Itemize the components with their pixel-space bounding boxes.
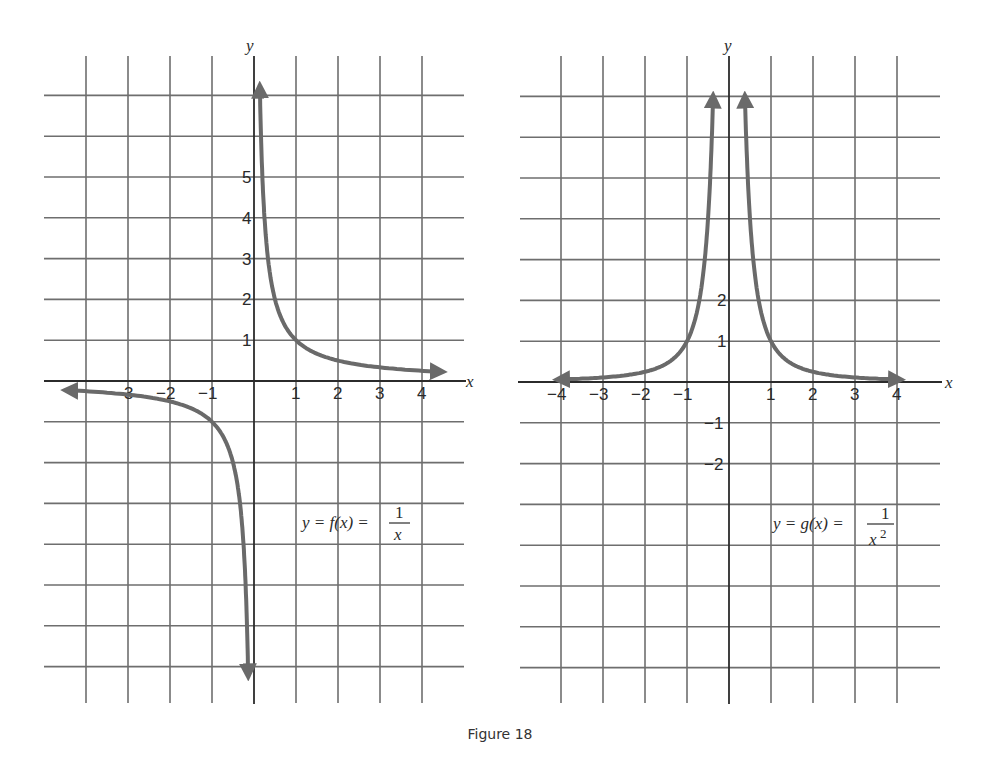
right-curve-negative-branch [561, 100, 713, 380]
right-equation-lhs: y = g(x) = [771, 514, 844, 533]
right-x-tick-label: −3 [589, 385, 608, 404]
left-x-tick-label: 2 [333, 384, 342, 403]
left-x-tick-label: −1 [198, 384, 217, 403]
right-y-axis-label: y [722, 36, 732, 55]
figure-canvas: x y −3−2−11234 54321 y = f(x) = 1 x x y … [0, 0, 1000, 758]
left-x-tick-label: 4 [417, 384, 426, 403]
right-x-tick-label: −4 [547, 385, 566, 404]
right-y-tick-label: 1 [717, 332, 726, 351]
right-x-tick-labels: −4−3−2−11234 [547, 385, 901, 404]
right-x-tick-label: 2 [808, 385, 817, 404]
left-curve-negative-branch [69, 390, 248, 672]
left-x-axis-label: x [465, 372, 474, 391]
left-x-tick-label: 1 [291, 384, 300, 403]
left-curve-positive-branch [260, 90, 439, 372]
right-y-tick-label: 2 [717, 291, 726, 310]
right-graph-panel: x y −4−3−2−11234 21−1−2 y = g(x) = 1 x 2 [518, 36, 953, 704]
left-y-tick-label: 1 [242, 331, 251, 350]
right-x-tick-label: 4 [892, 385, 901, 404]
right-equation-label: y = g(x) = 1 x 2 [771, 504, 894, 549]
left-y-tick-label: 3 [242, 250, 251, 269]
left-equation-label: y = f(x) = 1 x [300, 503, 410, 544]
left-y-axis-label: y [244, 36, 254, 55]
left-y-tick-label: 4 [242, 209, 251, 228]
right-y-tick-label: −2 [704, 455, 723, 474]
left-graph-panel: x y −3−2−11234 54321 y = f(x) = 1 x [44, 36, 474, 704]
right-equation-denominator: x [868, 530, 877, 549]
left-y-tick-labels: 54321 [242, 168, 251, 350]
right-equation-numerator: 1 [881, 504, 890, 523]
right-x-tick-label: 1 [766, 385, 775, 404]
left-y-tick-label: 5 [242, 168, 251, 187]
right-x-axis-label: x [944, 373, 953, 392]
left-x-tick-label: 3 [375, 384, 384, 403]
left-equation-lhs: y = f(x) = [300, 513, 369, 532]
left-y-tick-label: 2 [242, 290, 251, 309]
right-x-tick-label: −2 [631, 385, 650, 404]
right-x-tick-label: −1 [673, 385, 692, 404]
right-curve-positive-branch [745, 100, 897, 380]
left-equation-denominator: x [393, 525, 402, 544]
left-equation-numerator: 1 [395, 503, 404, 522]
right-equation-exponent: 2 [880, 526, 887, 541]
right-y-tick-label: −1 [704, 414, 723, 433]
right-x-tick-label: 3 [850, 385, 859, 404]
figure-caption: Figure 18 [0, 726, 1000, 742]
